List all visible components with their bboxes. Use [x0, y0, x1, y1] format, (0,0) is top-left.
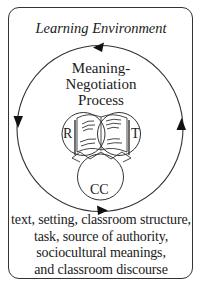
factor-line: sociocultural meanings, — [0, 245, 202, 262]
environment-factors: text, setting, classroom structure, task… — [0, 212, 202, 278]
venn-label-t: T — [131, 127, 140, 141]
arrow-up-icon — [177, 118, 187, 130]
process-label-line: Process — [0, 92, 202, 108]
process-label-line: Negotiation — [0, 76, 202, 92]
arrow-left-icon — [93, 43, 104, 53]
venn-label-cc: CC — [90, 183, 109, 197]
venn-label-r: R — [63, 127, 72, 141]
factor-line: text, setting, classroom structure, — [0, 212, 202, 229]
factor-line: task, source of authority, — [0, 229, 202, 246]
meaning-negotiation-label: Meaning- Negotiation Process — [0, 60, 202, 108]
environment-title: Learning Environment — [0, 20, 202, 36]
arrow-down-icon — [14, 116, 24, 128]
factor-line: and classroom discourse — [0, 262, 202, 279]
process-label-line: Meaning- — [0, 60, 202, 76]
